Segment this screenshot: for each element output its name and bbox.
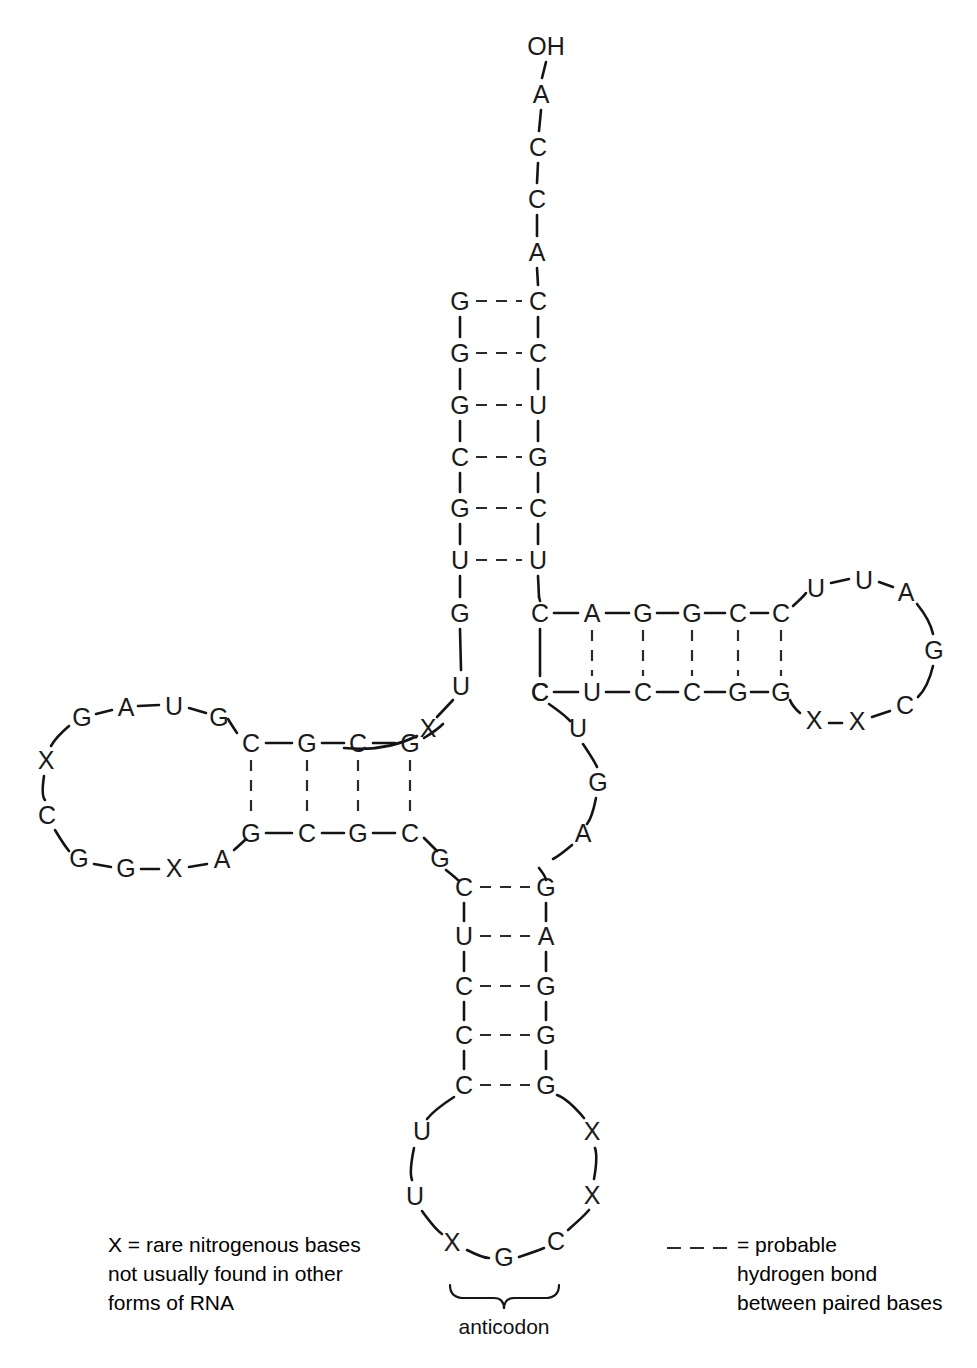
base-junc-G: G: [430, 844, 449, 872]
base-tstemB-2: U: [583, 678, 601, 706]
base-accL-1: G: [450, 287, 469, 315]
base-dstemT-3: C: [349, 729, 367, 757]
base-accL-5: G: [450, 494, 469, 522]
base-acloop-X1: X: [444, 1228, 461, 1256]
base-acL-5: C: [455, 1071, 473, 1099]
base-tstemB-5: G: [728, 678, 747, 706]
base-dloop-C: C: [38, 801, 56, 829]
base-accR-6: U: [529, 546, 547, 574]
base-var-U: U: [569, 714, 587, 742]
base-acL-2: U: [455, 922, 473, 950]
base-acloop-G: G: [494, 1243, 513, 1271]
base-tstemT-3: G: [633, 599, 652, 627]
base-acloop-X2: X: [584, 1181, 601, 1209]
base-tstemB-4: C: [683, 678, 701, 706]
base-link5-X: X: [420, 714, 437, 742]
base-dloop-X1: X: [38, 746, 55, 774]
base-acc3-2: C: [529, 133, 547, 161]
base-dstemB-3: G: [348, 819, 367, 847]
anticodon-label: anticodon: [458, 1315, 549, 1338]
base-acR-5: G: [536, 1071, 555, 1099]
base-link5-G: G: [450, 599, 469, 627]
base-accR-5: C: [529, 494, 547, 522]
base-dstemT-4: G: [400, 729, 419, 757]
base-dloop-G3: G: [69, 844, 88, 872]
base-dloop-U: U: [165, 692, 183, 720]
base-dloop-G2: G: [209, 703, 228, 731]
legend-rare-bases: X = rare nitrogenous bases not usually f…: [108, 1233, 408, 1315]
base-accL-2: G: [450, 339, 469, 367]
base-tloop-U1: U: [807, 574, 825, 602]
base-dstemB-2: C: [298, 819, 316, 847]
base-dloop-G4: G: [116, 854, 135, 882]
base-tstemB-1: C: [531, 678, 549, 706]
base-tloop-C: C: [896, 691, 914, 719]
base-acloop-U2: U: [406, 1182, 424, 1210]
base-acc3-3: C: [528, 185, 546, 213]
legend-rare-line3: forms of RNA: [108, 1291, 408, 1315]
base-accR-1: C: [529, 287, 547, 315]
base-acR-3: G: [536, 972, 555, 1000]
base-acc3-4: A: [529, 238, 546, 266]
base-dstemT-2: G: [297, 729, 316, 757]
base-accL-3: G: [450, 391, 469, 419]
base-tstemT-6: C: [772, 599, 790, 627]
base-acL-4: C: [455, 1021, 473, 1049]
legend-hydrogen-bond: = probable hydrogen bond between paired …: [737, 1233, 977, 1315]
legend-rare-line1: X = rare nitrogenous bases: [108, 1233, 408, 1257]
base-dstemB-4: C: [401, 819, 419, 847]
base-tloop-X1: X: [849, 707, 866, 735]
base-tloop-U2: U: [855, 566, 873, 594]
base-acloop-C: C: [547, 1227, 565, 1255]
base-dstemT-1: C: [242, 729, 260, 757]
base-tstemB-6: G: [771, 678, 790, 706]
base-acR-1: G: [536, 873, 555, 901]
base-acloop-U1: U: [413, 1117, 431, 1145]
base-dstemB-1: G: [241, 819, 260, 847]
base-dloop-A: A: [118, 693, 135, 721]
base-acR-2: A: [538, 922, 555, 950]
trna-diagram-canvas: OHACCAGGGCGUCCUGCUGUXGAUGXCGGXACGCGGCGCG…: [0, 0, 977, 1368]
base-dloop-X2: X: [166, 854, 183, 882]
base-accR-4: G: [528, 443, 547, 471]
hydrogen-bond-lines: [251, 301, 781, 1085]
base-var-A: A: [575, 819, 592, 847]
base-dloop-A2: A: [214, 845, 231, 873]
legend-hbond-line2: hydrogen bond: [737, 1262, 977, 1286]
base-acloop-X3: X: [584, 1117, 601, 1145]
base-tstemT-2: A: [584, 599, 601, 627]
base-tstemT-5: C: [729, 599, 747, 627]
backbone-lines: [43, 62, 933, 1258]
base-tstemT-1: C: [531, 599, 549, 627]
legend-hbond-line3: between paired bases: [737, 1291, 977, 1315]
base-accL-6: U: [451, 546, 469, 574]
base-acc3-1: A: [533, 80, 550, 108]
base-accL-4: C: [451, 443, 469, 471]
base-accR-3: U: [529, 391, 547, 419]
base-link5-U: U: [452, 672, 470, 700]
anticodon-brace: [450, 1285, 559, 1309]
base-acL-1: C: [455, 873, 473, 901]
base-var-G: G: [588, 768, 607, 796]
base-acc3-OH: OH: [527, 32, 565, 60]
trna-cloverleaf-svg: OHACCAGGGCGUCCUGCUGUXGAUGXCGGXACGCGGCGCG…: [0, 0, 977, 1368]
legend-rare-line2: not usually found in other: [108, 1262, 408, 1286]
base-accR-2: C: [529, 339, 547, 367]
base-tloop-G: G: [924, 636, 943, 664]
base-tstemB-3: C: [634, 678, 652, 706]
base-acL-3: C: [455, 972, 473, 1000]
base-acR-4: G: [536, 1021, 555, 1049]
base-tstemT-4: G: [682, 599, 701, 627]
legend-hbond-line1: = probable: [737, 1233, 977, 1257]
base-dloop-G1: G: [72, 703, 91, 731]
base-tloop-X2: X: [806, 706, 823, 734]
base-tloop-A: A: [898, 578, 915, 606]
